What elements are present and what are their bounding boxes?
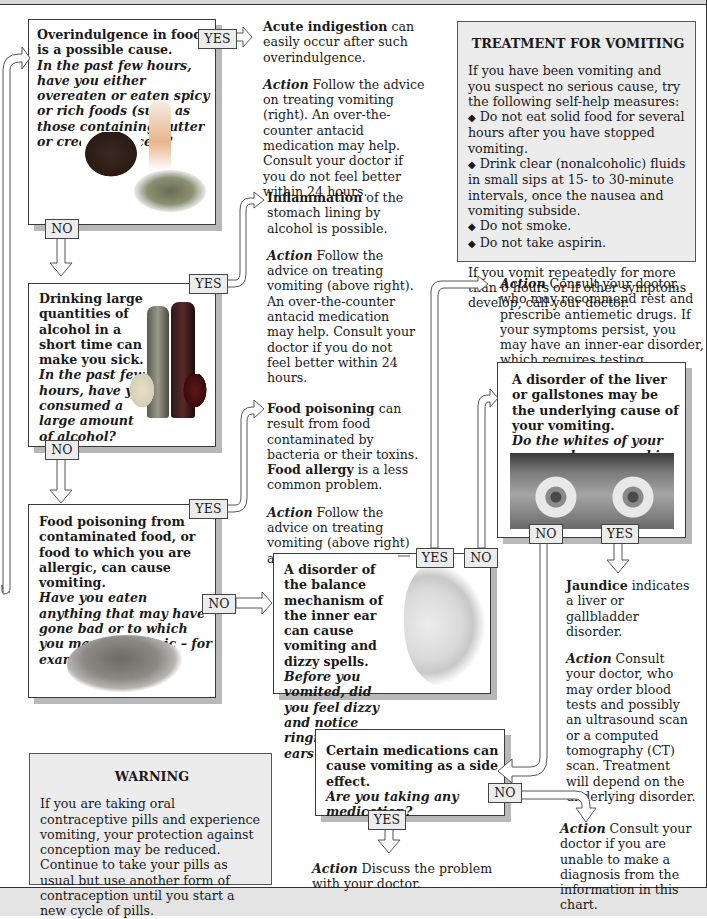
inner-ear-no-label[interactable]: NO — [464, 548, 498, 568]
treatment-bullet-4: ◆ Do not take aspirin. — [468, 235, 688, 251]
treatment-bullet-3: ◆ Do not smoke. — [468, 218, 688, 234]
node-overindulgence: Overindulgence in food is a possible cau… — [28, 19, 216, 225]
arrow-yes-overindulgence — [236, 27, 252, 47]
food-allergy-bold: Food allergy — [267, 462, 354, 477]
warning-text: If you are taking oral contraceptive pil… — [40, 796, 264, 918]
diamond-bullet-icon: ◆ — [468, 221, 476, 232]
alcohol-no-label[interactable]: NO — [45, 440, 79, 460]
food-poisoning-action-label: Action — [267, 505, 313, 520]
salad-plate-photo — [134, 170, 206, 212]
alcohol-yes-label[interactable]: YES — [189, 274, 228, 294]
page-top-band — [0, 0, 707, 5]
node-food-poisoning: Food poisoning from contaminated food, o… — [28, 504, 216, 698]
outcome-jaundice: Jaundice indicates a liver or gallbladde… — [566, 578, 696, 816]
indigestion-bold: Acute indigestion — [263, 19, 387, 34]
food-poisoning-yes-label[interactable]: YES — [189, 499, 228, 519]
medications-statement: Certain medications can cause vomiting a… — [326, 743, 498, 789]
liver-no-label[interactable]: NO — [529, 524, 563, 544]
jaundice-bold: Jaundice — [566, 578, 628, 593]
white-wine-glass-photo — [125, 374, 159, 414]
outcome-medication: Action Discuss the problem with your doc… — [312, 861, 502, 892]
treatment-bullet-1: ◆ Do not eat solid food for several hour… — [468, 109, 688, 156]
treatment-intro: If you have been vomiting and you suspec… — [468, 63, 688, 109]
inner-ear-statement: A disorder of the balance mechanism of t… — [284, 562, 383, 669]
medications-text: Certain medications can cause vomiting a… — [326, 743, 504, 819]
indigestion-action: Follow the advice on treating vomiting (… — [263, 77, 425, 199]
treatment-title: TREATMENT FOR VOMITING — [468, 36, 688, 51]
red-wine-glass-photo — [179, 374, 211, 414]
arrow-no-alcohol — [50, 456, 72, 503]
inner-ear-illustration — [404, 562, 486, 687]
inflammation-action: Follow the advice on treating vomiting (… — [267, 248, 415, 385]
node-alcohol: Drinking large quantities of alcohol in … — [28, 283, 216, 447]
indigestion-action-label: Action — [263, 77, 309, 92]
alcohol-statement: Drinking large quantities of alcohol in … — [39, 291, 144, 367]
medications-yes-label[interactable]: YES — [368, 810, 406, 830]
overindulgence-no-label[interactable]: NO — [45, 219, 79, 239]
outcome-inflammation: Inflammation of the stomach lining by al… — [267, 190, 417, 398]
diamond-bullet-icon: ◆ — [468, 159, 476, 170]
overindulgence-yes-label[interactable]: YES — [198, 29, 237, 49]
inflammation-action-label: Action — [267, 248, 313, 263]
food-poisoning-no-label[interactable]: NO — [202, 594, 236, 614]
shrimp-photo — [67, 635, 187, 695]
node-medications: Certain medications can cause vomiting a… — [315, 729, 505, 816]
outcome-undiagnosed: Action Consult your doctor if you are un… — [560, 821, 700, 913]
outcome-indigestion: Acute indigestion can easily occur after… — [263, 19, 428, 211]
treatment-bullet-2: ◆ Drink clear (nonalcoholic) fluids in s… — [468, 156, 688, 218]
arrow-no-inner-ear — [478, 389, 498, 548]
medications-no-label[interactable]: NO — [488, 783, 522, 803]
arrow-no-overindulgence — [50, 237, 72, 276]
liver-statement: A disorder of the liver or gallstones ma… — [512, 372, 679, 433]
arrow-no-liver — [498, 540, 547, 783]
alcohol-text: Drinking large quantities of alcohol in … — [39, 291, 151, 444]
inner-ear-yes-label[interactable]: YES — [416, 548, 454, 568]
arrow-yes-food-poisoning — [226, 400, 264, 512]
jaundice-action: Consult your doctor, who may order blood… — [566, 651, 695, 804]
treatment-for-vomiting-panel: TREATMENT FOR VOMITING If you have been … — [457, 21, 696, 262]
inner-ear-action-label: Action — [500, 276, 546, 291]
jaundice-action-label: Action — [566, 651, 612, 666]
node-liver: A disorder of the liver or gallstones ma… — [497, 362, 686, 538]
food-poisoning-bold: Food poisoning — [267, 401, 375, 416]
arrow-yes-liver — [607, 540, 629, 573]
warning-title: WARNING — [40, 769, 264, 784]
arrow-yes-alcohol — [226, 192, 264, 287]
diamond-bullet-icon: ◆ — [468, 238, 476, 249]
undiagnosed-action-label: Action — [560, 821, 606, 836]
arrow-yes-inner-ear — [431, 276, 488, 548]
node-inner-ear: A disorder of the balance mechanism of t… — [273, 553, 491, 694]
entry-arrow-left-loop — [3, 47, 30, 594]
inflammation-bold: Inflammation — [267, 190, 362, 205]
diamond-bullet-icon: ◆ — [468, 112, 476, 123]
outcome-food-poisoning: Food poisoning can result from food cont… — [267, 401, 427, 578]
arrow-no-food-poisoning — [236, 592, 272, 614]
warning-panel: WARNING If you are taking oral contracep… — [29, 753, 272, 885]
overindulgence-statement: Overindulgence in food is a possible cau… — [37, 27, 202, 57]
cake-and-ice-cream-photo — [81, 132, 141, 180]
sundae-glass-photo — [149, 100, 171, 170]
eyes-photo — [510, 453, 674, 529]
food-poisoning-statement: Food poisoning from contaminated food, o… — [39, 514, 195, 590]
liver-yes-label[interactable]: YES — [601, 524, 639, 544]
medication-action-label: Action — [312, 861, 358, 876]
